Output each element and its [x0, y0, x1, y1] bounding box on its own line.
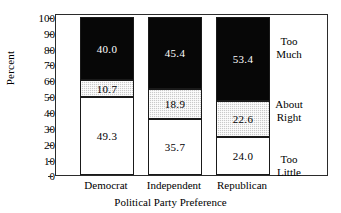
y-tick-mark-100	[48, 18, 53, 19]
y-tick-mark-70	[48, 65, 53, 66]
bar-value-label: 24.0	[233, 150, 253, 162]
legend-label-too-little: Too Little	[254, 153, 324, 179]
bar-segment-too-little-democrat[interactable]: 49.3	[80, 97, 134, 175]
chart-page: Percent 100 90 80 70 60 50 40 30 20 10 0…	[0, 0, 341, 213]
bar-segment-too-much-independent[interactable]: 45.4	[148, 17, 202, 89]
bar-segment-too-little-independent[interactable]: 35.7	[148, 119, 202, 175]
bar-democrat[interactable]: 40.0 10.7 49.3	[80, 17, 134, 175]
bar-value-label: 45.4	[165, 47, 185, 59]
legend-label-line-1: Too	[254, 153, 324, 166]
bar-value-label: 22.6	[233, 113, 253, 125]
bar-value-label: 10.7	[97, 83, 117, 95]
y-tick-mark-50	[48, 97, 53, 98]
legend-label-line-1: About	[254, 98, 324, 111]
bar-segment-about-right-independent[interactable]: 18.9	[148, 89, 202, 119]
bar-value-label: 18.9	[165, 98, 185, 110]
legend-label-too-much: Too Much	[254, 35, 324, 61]
legend-label-line-1: Too	[254, 35, 324, 48]
y-tick-mark-20	[48, 145, 53, 146]
bar-segment-about-right-democrat[interactable]: 10.7	[80, 80, 134, 97]
bar-value-label: 40.0	[97, 43, 117, 55]
bar-segment-too-much-democrat[interactable]: 40.0	[80, 17, 134, 80]
y-tick-mark-30	[48, 129, 53, 130]
bar-independent[interactable]: 45.4 18.9 35.7	[148, 17, 202, 175]
bar-value-label: 53.4	[233, 53, 253, 65]
legend-label-line-2: Much	[254, 48, 324, 61]
y-axis-title: Percent	[4, 28, 16, 108]
y-tick-mark-10	[48, 161, 53, 162]
bar-value-label: 35.7	[165, 141, 185, 153]
y-axis: Percent 100 90 80 70 60 50 40 30 20 10 0	[0, 0, 55, 213]
x-axis-title: Political Party Preference	[0, 196, 341, 208]
legend-label-about-right: About Right	[254, 98, 324, 124]
plot-area: 40.0 10.7 49.3 45.4 18.9 35.7 53.4	[55, 14, 328, 176]
y-tick-mark-90	[48, 34, 53, 35]
legend-label-line-2: Little	[254, 166, 324, 179]
y-tick-mark-80	[48, 50, 53, 51]
legend-label-line-2: Right	[254, 111, 324, 124]
bar-value-label: 49.3	[97, 130, 117, 142]
x-tick-label-republican: Republican	[197, 179, 287, 191]
y-tick-mark-40	[48, 113, 53, 114]
y-tick-mark-0	[48, 176, 53, 177]
y-tick-mark-60	[48, 81, 53, 82]
